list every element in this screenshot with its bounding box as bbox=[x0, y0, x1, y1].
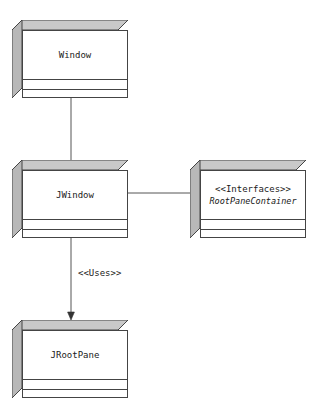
class-box-front: <<Interfaces>> RootPaneContainer bbox=[200, 170, 306, 238]
class-box-jwindow[interactable]: JWindow bbox=[12, 160, 128, 238]
class-name-label: RootPaneContainer bbox=[210, 195, 297, 207]
relation-label-uses: <<Uses>> bbox=[78, 268, 121, 279]
class-box-window[interactable]: Window bbox=[12, 20, 128, 98]
class-name-compartment: <<Interfaces>> RootPaneContainer bbox=[201, 171, 305, 219]
class-name-label: Window bbox=[59, 49, 92, 61]
uml-diagram-canvas: Window JWindow <<Interfaces>> Ro bbox=[0, 0, 309, 401]
class-compartment-divider-1 bbox=[201, 219, 305, 220]
class-compartment-divider-2 bbox=[23, 229, 127, 230]
connector-jwindow-to-rootpanecontainer bbox=[120, 190, 201, 196]
class-stereotype-label: <<Interfaces>> bbox=[215, 183, 291, 195]
class-box-jrootpane[interactable]: JRootPane bbox=[12, 320, 128, 398]
class-compartment-divider-1 bbox=[23, 79, 127, 80]
class-box-front: JRootPane bbox=[22, 330, 128, 398]
class-name-compartment: Window bbox=[23, 31, 127, 79]
class-compartment-divider-1 bbox=[23, 379, 127, 380]
class-box-front: JWindow bbox=[22, 170, 128, 238]
class-box-front: Window bbox=[22, 30, 128, 98]
class-compartment-divider-2 bbox=[201, 229, 305, 230]
class-compartment-divider-1 bbox=[23, 219, 127, 220]
class-name-label: JRootPane bbox=[51, 349, 100, 361]
class-compartment-divider-2 bbox=[23, 89, 127, 90]
connector-jwindow-to-jrootpane bbox=[68, 228, 75, 320]
class-name-label: JWindow bbox=[56, 189, 94, 201]
class-box-rootpanecontainer[interactable]: <<Interfaces>> RootPaneContainer bbox=[190, 160, 306, 238]
class-name-compartment: JWindow bbox=[23, 171, 127, 219]
class-name-compartment: JRootPane bbox=[23, 331, 127, 379]
class-compartment-divider-2 bbox=[23, 389, 127, 390]
